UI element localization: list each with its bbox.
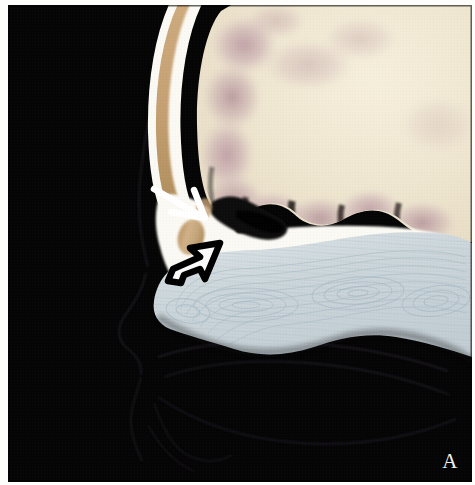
figure-root: A (0, 0, 475, 485)
print-grain-overlay (8, 5, 472, 482)
panel-label: A (442, 451, 458, 472)
sagittal-scan-canvas (8, 5, 472, 482)
scan-image-frame: A (8, 5, 472, 482)
